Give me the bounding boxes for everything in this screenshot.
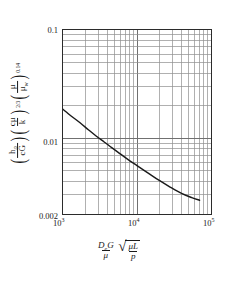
x-axis-numerator: DeG: [96, 241, 116, 250]
x-tick-mantissa: 10: [128, 218, 137, 228]
x-tick-exponent: 5: [212, 217, 215, 223]
x-tick-exponent: 4: [137, 217, 140, 223]
data-curve: [63, 30, 211, 214]
x-axis-tick-label: 105: [203, 219, 215, 228]
x-axis-tick-label: 103: [53, 219, 65, 228]
x-axis-tick-label: 104: [128, 219, 140, 228]
y-axis-tick-label: 0.1: [47, 26, 58, 35]
x-tick-mantissa: 10: [53, 218, 62, 228]
x-axis-fraction: DeG μ: [96, 241, 116, 261]
y-axis-group-2: ( cμ k ) 2/3: [8, 101, 28, 136]
x-tick-exponent: 3: [62, 217, 65, 223]
x-axis-title: DeG μ √ μL p: [96, 240, 140, 261]
chart-figure: 0.1 0.01 0.002 103 104 105 DeG μ √ μL p: [0, 0, 237, 281]
x-axis-denominator: μ: [102, 250, 111, 260]
radical-numerator: μL: [126, 242, 140, 251]
y-axis-group-3: ( μ μw ) 0.14: [8, 63, 28, 101]
x-axis-radical: √ μL p: [118, 240, 140, 261]
y-axis-title: ( h0 cG ) ( cμ k ) 2/3 ( μ μw ) 0.14: [8, 54, 28, 174]
radical-denominator: p: [129, 251, 138, 261]
plot-area: [62, 29, 212, 215]
x-tick-mantissa: 10: [203, 218, 212, 228]
y-axis-tick-label: 0.01: [43, 138, 58, 147]
y-axis-group-1: ( h0 cG ): [8, 136, 28, 165]
